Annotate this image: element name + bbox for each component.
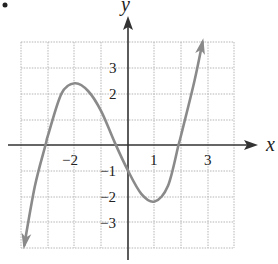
graph-figure: x y −2 1 3 3 2 −1 −2 −3	[0, 0, 278, 264]
x-tick-label: 3	[204, 152, 212, 168]
x-axis-label: x	[265, 133, 275, 155]
y-tick-label: −1	[100, 163, 116, 179]
y-axis-label: y	[119, 0, 130, 16]
y-tick-label: −2	[100, 189, 116, 205]
bullet-dot	[3, 3, 8, 8]
axes	[8, 22, 252, 260]
x-tick-label: 1	[150, 152, 158, 168]
y-tick-label: 2	[109, 86, 117, 102]
x-tick-label: −2	[62, 152, 78, 168]
y-tick-label: −3	[100, 215, 116, 231]
y-tick-label: 3	[109, 60, 117, 76]
